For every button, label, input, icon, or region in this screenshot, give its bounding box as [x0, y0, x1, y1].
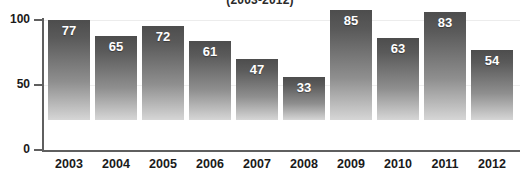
bar-slot[interactable]: 65 [95, 36, 137, 121]
bar-value-label: 47 [236, 62, 278, 77]
bar[interactable]: 63 [377, 38, 419, 120]
bar[interactable]: 54 [471, 50, 513, 120]
bar-value-label: 85 [330, 13, 372, 28]
bar-slot[interactable]: 54 [471, 50, 513, 120]
bar[interactable]: 47 [236, 59, 278, 120]
bar[interactable]: 33 [283, 77, 325, 120]
bar-value-label: 33 [283, 80, 325, 95]
bar-slot[interactable]: 33 [283, 77, 325, 120]
x-tick-label-2004: 2004 [93, 157, 139, 171]
bar-value-label: 77 [48, 23, 90, 38]
x-tick-label-2009: 2009 [328, 157, 374, 171]
x-tick-label-2012: 2012 [469, 157, 515, 171]
x-tick-label-2003: 2003 [46, 157, 92, 171]
bar-value-label: 72 [142, 29, 184, 44]
bar-value-label: 61 [189, 44, 231, 59]
bar[interactable]: 61 [189, 41, 231, 120]
bar[interactable]: 65 [95, 36, 137, 121]
x-tick-label-2008: 2008 [281, 157, 327, 171]
bar-chart: (2003-2012) 100500 77657261473385638354 … [0, 0, 520, 182]
bar-value-label: 63 [377, 41, 419, 56]
bar-slot[interactable]: 72 [142, 26, 184, 120]
bar-slot[interactable]: 61 [189, 41, 231, 120]
x-tick-label-2011: 2011 [422, 157, 468, 171]
bar-slot[interactable]: 83 [424, 12, 466, 120]
bar-slot[interactable]: 85 [330, 10, 372, 121]
y-tick-label-50: 50 [0, 77, 30, 91]
bar[interactable]: 83 [424, 12, 466, 120]
y-tick-label-0: 0 [0, 142, 30, 156]
x-tick-label-2006: 2006 [187, 157, 233, 171]
x-axis-labels: 2003200420052006200720082009201020112012 [42, 153, 520, 182]
bar-value-label: 65 [95, 39, 137, 54]
bar-value-label: 54 [471, 53, 513, 68]
bar-value-label: 83 [424, 15, 466, 30]
x-tick-label-2005: 2005 [140, 157, 186, 171]
x-tick-label-2010: 2010 [375, 157, 421, 171]
bar-series: 77657261473385638354 [42, 0, 520, 152]
bar[interactable]: 85 [330, 10, 372, 121]
bar-slot[interactable]: 77 [48, 20, 90, 120]
bar-slot[interactable]: 63 [377, 38, 419, 120]
bar[interactable]: 77 [48, 20, 90, 120]
x-tick-label-2007: 2007 [234, 157, 280, 171]
bar-slot[interactable]: 47 [236, 59, 278, 120]
y-tick-label-100: 100 [0, 12, 30, 26]
bar[interactable]: 72 [142, 26, 184, 120]
